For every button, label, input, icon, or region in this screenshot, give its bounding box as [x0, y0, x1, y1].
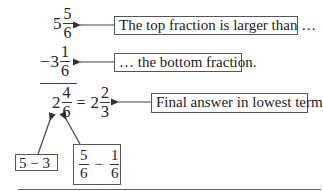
bottom-mixed-number: − 3 1 6	[40, 44, 70, 79]
box-left-numerator: 5	[79, 148, 89, 165]
result-whole: 2	[52, 94, 61, 111]
simplified-fraction: 2 3	[100, 85, 110, 120]
top-denominator: 6	[64, 24, 72, 41]
callout-bottom: … the bottom fraction.	[114, 53, 242, 72]
bottom-whole: 3	[51, 53, 60, 70]
top-mixed-number: 5 5 6	[52, 6, 73, 41]
arrow-whole-icon	[38, 120, 50, 154]
callout-result: Final answer in lowest terms	[151, 93, 308, 113]
box-right-numerator: 1	[110, 148, 120, 165]
result-denominator: 6	[63, 103, 71, 120]
top-whole: 5	[53, 15, 62, 32]
top-fraction: 5 6	[63, 6, 73, 41]
top-numerator: 5	[63, 6, 73, 24]
box-right-denominator: 6	[111, 165, 119, 181]
box-right-fraction: 1 6	[110, 148, 120, 181]
bottom-divider	[18, 189, 321, 190]
simplified-denominator: 3	[101, 103, 109, 120]
subtraction-rule	[40, 83, 77, 84]
bottom-denominator: 6	[61, 62, 69, 79]
bottom-numerator: 1	[60, 44, 70, 62]
equals-sign: =	[77, 95, 86, 111]
result-expression: 2 4 6 = 2 2 3	[52, 85, 110, 120]
callout-top: The top fraction is larger than …	[114, 16, 298, 35]
box-left-fraction: 5 6	[79, 148, 89, 181]
bottom-sign: −	[40, 53, 50, 70]
result-fraction: 4 6	[62, 85, 72, 120]
fraction-part-box: 5 6 − 1 6	[73, 144, 121, 185]
box-left-denominator: 6	[80, 165, 88, 181]
simplified-whole: 2	[91, 94, 100, 111]
arrow-fraction-icon	[66, 119, 80, 144]
box-operator: −	[95, 157, 103, 172]
bottom-fraction: 1 6	[60, 44, 70, 79]
simplified-numerator: 2	[100, 85, 110, 103]
whole-part-box: 5 − 3	[15, 154, 58, 171]
result-numerator: 4	[62, 85, 72, 103]
